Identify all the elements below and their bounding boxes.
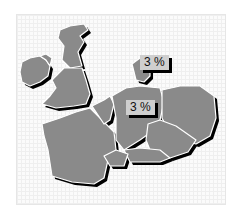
europe-map — [0, 0, 237, 217]
label-denmark-percent: 3 % — [140, 55, 169, 70]
map-countries — [20, 24, 216, 184]
label-germany-percent: 3 % — [126, 100, 155, 115]
